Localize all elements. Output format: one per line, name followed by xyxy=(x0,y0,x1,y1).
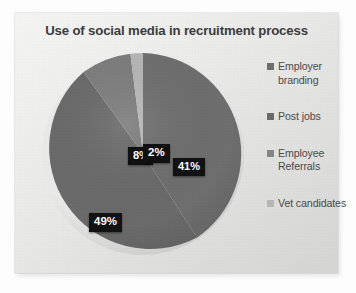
legend-swatch-icon xyxy=(267,113,274,120)
legend-label: Employee Referrals xyxy=(278,147,353,174)
legend-item-post-jobs[interactable]: Post jobs xyxy=(267,110,353,124)
legend-swatch-icon xyxy=(267,63,274,70)
legend-label: Vet candidates xyxy=(278,197,346,211)
chart-legend: Employer branding Post jobs Employee Ref… xyxy=(267,60,353,233)
chart-panel: Use of social media in recruitment proce… xyxy=(15,13,338,273)
legend-item-employee-referrals[interactable]: Employee Referrals xyxy=(267,147,353,174)
chart-title: Use of social media in recruitment proce… xyxy=(15,23,338,38)
legend-item-vet-candidates[interactable]: Vet candidates xyxy=(267,197,353,211)
legend-label: Employer branding xyxy=(278,60,353,87)
data-label-post-jobs: 49% xyxy=(89,213,122,232)
legend-label: Post jobs xyxy=(278,110,321,124)
legend-swatch-icon xyxy=(267,200,274,207)
legend-item-employer-branding[interactable]: Employer branding xyxy=(267,60,353,87)
legend-swatch-icon xyxy=(267,150,274,157)
data-label-employer-branding: 41% xyxy=(173,158,205,176)
pie-chart: 41% 49% 8% 2% xyxy=(41,50,246,258)
data-label-vet-candidates: 2% xyxy=(143,144,170,163)
